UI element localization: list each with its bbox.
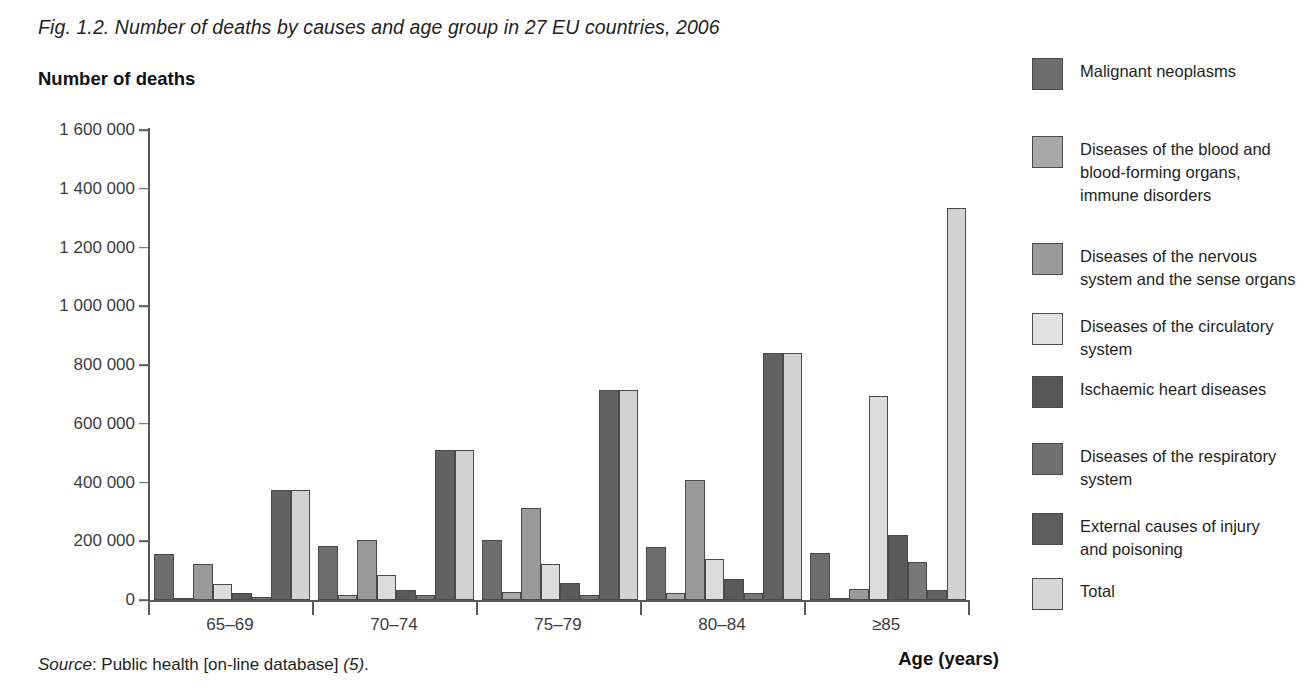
bar-group: [476, 130, 640, 600]
source-label: Source: [38, 655, 92, 674]
x-axis-tick-label: 70–74: [370, 615, 417, 635]
bar: [232, 593, 252, 600]
bar: [580, 595, 600, 600]
source-text: : Public health [on-line database]: [92, 655, 343, 674]
bar: [599, 390, 619, 600]
bar: [455, 450, 475, 600]
bar: [416, 595, 436, 600]
bar: [724, 579, 744, 600]
x-axis-tick-mark: [804, 600, 806, 615]
legend-label: Ischaemic heart diseases: [1080, 378, 1266, 401]
x-axis-line: [148, 600, 970, 602]
bar: [502, 592, 522, 600]
legend-label: External causes of injury and poisoning: [1080, 515, 1260, 561]
y-axis-tick-label: 600 000: [74, 414, 148, 434]
x-axis-tick-label: 80–84: [698, 615, 745, 635]
y-axis-tick-mark: [139, 540, 148, 542]
bar: [291, 490, 311, 600]
legend-item: Total: [1032, 578, 1115, 610]
legend-item: Diseases of the respiratory system: [1032, 443, 1276, 491]
x-axis-tick-mark: [148, 600, 150, 615]
bar: [318, 546, 338, 600]
y-axis-title: Number of deaths: [38, 68, 195, 90]
y-axis-tick-mark: [139, 305, 148, 307]
legend-label: Malignant neoplasms: [1080, 60, 1236, 83]
bar: [666, 593, 686, 600]
legend-item: Malignant neoplasms: [1032, 58, 1236, 90]
y-axis-tick-label: 200 000: [74, 531, 148, 551]
x-axis-tick-mark: [640, 600, 642, 615]
legend-swatch: [1032, 376, 1063, 408]
x-axis-title: Age (years): [898, 648, 999, 670]
bar: [810, 553, 830, 600]
bar: [193, 564, 213, 600]
bar: [947, 208, 967, 600]
source-period: .: [364, 655, 369, 674]
legend-item: Diseases of the circulatory system: [1032, 313, 1274, 361]
bar-group: [640, 130, 804, 600]
y-axis-tick-mark: [139, 129, 148, 131]
legend-item: Diseases of the blood and blood-forming …: [1032, 136, 1271, 207]
x-axis-tick-mark: [476, 600, 478, 615]
bar: [560, 583, 580, 600]
bar: [396, 590, 416, 600]
y-axis-tick-label: 1 600 000: [59, 120, 148, 140]
y-axis-tick-label: 400 000: [74, 473, 148, 493]
y-axis-tick-mark: [139, 247, 148, 249]
figure-title: Fig. 1.2. Number of deaths by causes and…: [38, 16, 720, 39]
bar: [869, 396, 889, 600]
bar: [908, 562, 928, 600]
legend-swatch: [1032, 578, 1063, 610]
y-axis-tick-label: 1 400 000: [59, 179, 148, 199]
y-axis-tick-label: 1 200 000: [59, 238, 148, 258]
bar: [252, 597, 272, 600]
y-axis-tick-mark: [139, 482, 148, 484]
x-axis-tick-label: ≥85: [872, 615, 900, 635]
bar: [619, 390, 639, 600]
legend-label: Diseases of the blood and blood-forming …: [1080, 138, 1271, 207]
bar: [271, 490, 291, 600]
bar-group: [804, 130, 968, 600]
y-axis-tick-mark: [139, 599, 148, 601]
bar: [338, 595, 358, 600]
bar: [213, 584, 233, 600]
source-reference: (5): [343, 655, 364, 674]
legend-swatch: [1032, 58, 1063, 90]
bar: [646, 547, 666, 600]
y-axis-tick-label: 1 000 000: [59, 296, 148, 316]
y-axis-tick-label: 800 000: [74, 355, 148, 375]
bar: [377, 575, 397, 600]
y-axis-tick-mark: [139, 188, 148, 190]
x-axis-tick-mark: [312, 600, 314, 615]
bar: [357, 540, 377, 600]
legend-item: Diseases of the nervous system and the s…: [1032, 243, 1296, 291]
bar: [849, 589, 869, 600]
plot-area: 0200 000400 000600 000800 0001 000 0001 …: [148, 130, 968, 600]
bar: [830, 598, 850, 600]
legend-label: Diseases of the nervous system and the s…: [1080, 245, 1296, 291]
bar: [888, 535, 908, 600]
bar-group: [148, 130, 312, 600]
bar: [705, 559, 725, 600]
x-axis-tick-label: 65–69: [206, 615, 253, 635]
x-axis-tick-mark: [968, 600, 970, 615]
x-axis-tick-label: 75–79: [534, 615, 581, 635]
legend-label: Diseases of the circulatory system: [1080, 315, 1274, 361]
legend-swatch: [1032, 243, 1063, 275]
bar: [174, 598, 194, 600]
bar: [482, 540, 502, 600]
bar: [541, 564, 561, 600]
bar: [744, 593, 764, 600]
legend-item: Ischaemic heart diseases: [1032, 376, 1266, 408]
bar: [763, 353, 783, 600]
source-note: Source: Public health [on-line database]…: [38, 655, 369, 675]
bar-group: [312, 130, 476, 600]
legend-item: External causes of injury and poisoning: [1032, 513, 1260, 561]
y-axis-tick-mark: [139, 423, 148, 425]
bar: [685, 480, 705, 600]
bar: [154, 554, 174, 600]
legend-label: Total: [1080, 580, 1115, 603]
bar: [521, 508, 541, 600]
bar: [927, 590, 947, 600]
legend-swatch: [1032, 313, 1063, 345]
